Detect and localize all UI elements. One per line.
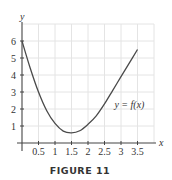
x-tick-label: 3 — [119, 146, 124, 157]
x-tick-label: 2.5 — [98, 146, 111, 157]
x-tick-label: 3.5 — [131, 146, 144, 157]
x-tick-label: 1.5 — [65, 146, 78, 157]
y-tick-label: 1 — [11, 121, 16, 132]
y-tick-label: 4 — [11, 70, 16, 81]
x-tick-label: 1 — [53, 146, 58, 157]
chart: 0.511.522.533.5123456 y = f(x) x y FIGUR… — [0, 0, 172, 180]
y-tick-label: 3 — [11, 87, 16, 98]
y-tick-label: 6 — [11, 36, 16, 47]
series-label: y = f(x) — [113, 99, 145, 111]
ticks: 0.511.522.533.5123456 — [11, 36, 144, 158]
figure-caption: FIGURE 11 — [50, 165, 110, 176]
x-tick-label: 2 — [86, 146, 91, 157]
x-axis-label: x — [158, 137, 164, 148]
y-axis-label: y — [19, 11, 25, 22]
x-tick-label: 0.5 — [32, 146, 45, 157]
y-tick-label: 2 — [11, 104, 16, 115]
series-line-f — [22, 41, 138, 133]
y-tick-label: 5 — [11, 53, 16, 64]
